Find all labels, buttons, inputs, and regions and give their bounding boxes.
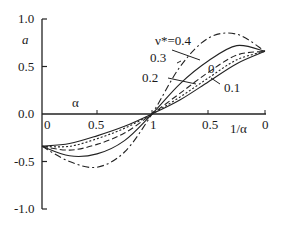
chart-plot [0, 0, 284, 225]
y-tick-0.0: 0.0 [18, 107, 34, 120]
annotation-0.1: 0.1 [224, 81, 240, 94]
y-tick-1.0: 1.0 [18, 12, 34, 25]
y-axis-label: a [22, 33, 29, 46]
x-tick-right-0: 0 [262, 118, 269, 131]
y-tick-0.5: 0.5 [18, 60, 34, 73]
x-tick-1: 1 [150, 118, 157, 131]
y-tick-neg-1.0: -1.0 [14, 202, 35, 215]
annotation-0.2: 0.2 [142, 71, 158, 84]
annotation-0: 0 [208, 62, 215, 75]
x-left-label: α [72, 96, 79, 109]
y-tick-neg-0.5: -0.5 [14, 155, 35, 168]
x-tick-0: 0 [44, 118, 51, 131]
x-tick-0.5: 0.5 [88, 118, 104, 131]
annotation-nu-0.4: ν*=0.4 [155, 34, 191, 47]
x-right-label: 1/α [230, 122, 247, 135]
annotation-0.3: 0.3 [150, 51, 166, 64]
x-tick-right-0.5: 0.5 [202, 118, 218, 131]
